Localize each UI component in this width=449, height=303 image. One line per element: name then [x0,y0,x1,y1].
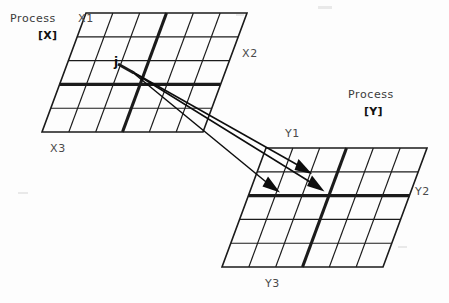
process-y-label-y2: Y2 [415,186,430,197]
process-x-label-x2: X2 [242,48,258,59]
process-y-highlight-column [303,148,347,267]
process-x-label-x1: X1 [78,13,94,24]
mapping-arrow-2 [131,71,312,174]
process-y-grid [222,148,427,267]
node-j-label: j [114,56,119,68]
process-x-label-x3: X3 [50,143,66,154]
node-j-stub [118,64,134,73]
process-y-label-y1: Y1 [285,128,300,139]
paper-specks [18,6,407,248]
process-x-caption: Process [10,13,56,24]
process-y-label-y3: Y3 [265,278,280,289]
process-x-highlight-column [123,13,167,132]
process-x-bracket-label: [X] [38,30,57,41]
process-y-caption: Process [348,89,394,100]
grid-mapping-svg [0,0,449,303]
process-x-grid [42,13,247,132]
process-y-bracket-label: [Y] [364,106,383,117]
diagram-canvas: Process X1 [X] X2 X3 j Process [Y] Y1 Y2… [0,0,449,303]
